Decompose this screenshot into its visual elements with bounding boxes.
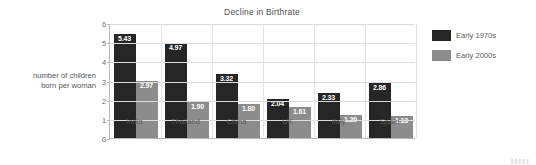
bar-value-label: 1.61 xyxy=(293,108,306,115)
gridline-vertical xyxy=(416,24,417,138)
bar-value-label: 2.86 xyxy=(373,84,386,91)
bar: 2.86 xyxy=(369,83,391,138)
y-axis-title-line-1: number of children xyxy=(8,71,96,81)
bar: 3.32 xyxy=(216,74,238,138)
gridline-vertical xyxy=(212,24,213,138)
x-axis-label-uk: UK xyxy=(282,117,293,126)
y-tick-mark xyxy=(107,139,110,140)
gridline-vertical xyxy=(161,24,162,138)
gridline-vertical xyxy=(365,24,366,138)
y-tick-mark xyxy=(107,101,110,102)
y-tick-label: 2 xyxy=(102,96,106,105)
y-tick-mark xyxy=(107,82,110,83)
y-tick-label: 6 xyxy=(102,20,106,29)
y-tick-mark xyxy=(107,120,110,121)
gridline-vertical xyxy=(263,24,264,138)
watermark-artifact: ‖‖‖‖‖ xyxy=(511,158,530,165)
legend-swatch-icon xyxy=(432,30,451,41)
birthrate-bar-chart: Decline in Birthrate number of children … xyxy=(0,0,536,165)
legend-item[interactable]: Early 2000s xyxy=(432,50,532,61)
gridline-vertical xyxy=(314,24,315,138)
y-tick-mark xyxy=(107,62,110,63)
x-axis-label-india: India xyxy=(126,117,142,126)
bar-value-label: 1.90 xyxy=(191,103,204,110)
plot-area: 5.432.974.971.903.321.802.041.612.331.20… xyxy=(109,24,415,139)
y-tick-label: 1 xyxy=(102,115,106,124)
legend-item[interactable]: Early 1970s xyxy=(432,30,532,41)
chart-legend: Early 1970sEarly 2000s xyxy=(432,30,532,70)
bar-value-label: 1.80 xyxy=(242,105,255,112)
bar-value-label: 4.97 xyxy=(169,44,182,51)
legend-label: Early 2000s xyxy=(456,51,496,60)
bar-value-label: 5.43 xyxy=(118,35,131,42)
y-tick-label: 0 xyxy=(102,135,106,144)
x-axis-label-italy: Italy xyxy=(332,117,346,126)
bar: 2.97 xyxy=(136,81,158,138)
x-axis-label-china: China xyxy=(227,117,247,126)
y-tick-mark xyxy=(107,24,110,25)
y-tick-mark xyxy=(107,43,110,44)
y-axis-title-line-2: born per woman xyxy=(8,81,96,91)
y-axis-title: number of children born per woman xyxy=(8,71,96,91)
chart-title: Decline in Birthrate xyxy=(109,7,415,17)
x-axis-label-spain: Spain xyxy=(380,117,399,126)
y-tick-label: 3 xyxy=(102,77,106,86)
legend-label: Early 1970s xyxy=(456,31,496,40)
x-axis-label-thailand: Thailand xyxy=(171,117,200,126)
legend-swatch-icon xyxy=(432,50,451,61)
y-tick-label: 4 xyxy=(102,58,106,67)
bar-value-label: 2.97 xyxy=(140,82,153,89)
y-tick-label: 5 xyxy=(102,39,106,48)
